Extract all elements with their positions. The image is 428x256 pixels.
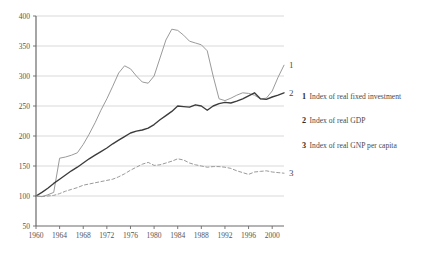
series-line-3 [36, 159, 284, 197]
legend-key: 3 [302, 141, 306, 150]
legend-label: Index of real fixed investment [310, 93, 402, 101]
x-axis-tick-label: 1988 [194, 231, 209, 240]
y-axis-tick-label: 300 [19, 72, 31, 81]
y-axis-tick-label: 200 [19, 132, 31, 141]
legend: 1 Index of real fixed investment 2 Index… [302, 92, 428, 165]
series-lines [36, 29, 284, 196]
y-axis-tick-label: 400 [19, 12, 31, 21]
legend-item: 1 Index of real fixed investment [302, 92, 428, 101]
x-axis-tick-label: 1992 [217, 231, 232, 240]
y-axis-tick-label: 50 [23, 222, 31, 231]
y-axis-tick-label: 100 [19, 192, 31, 201]
y-axis-tick-labels: 50100150200250300350400 [19, 12, 31, 231]
series-line-1 [36, 29, 284, 196]
x-axis-tick-label: 1968 [76, 231, 91, 240]
y-axis-tick-label: 350 [19, 42, 31, 51]
plot-area: 50100150200250300350400 1960196419681972… [0, 0, 300, 256]
legend-item: 3 Index of real GNP per capita [302, 141, 428, 150]
x-axis-tick-label: 1996 [241, 231, 256, 240]
legend-item: 2 Index of real GDP [302, 116, 428, 125]
x-axis-tick-label: 1984 [170, 231, 185, 240]
series-line-2 [36, 93, 284, 196]
series-end-label-1: 1 [289, 60, 294, 70]
y-axis-tick-label: 150 [19, 162, 31, 171]
chart-figure: 50100150200250300350400 1960196419681972… [0, 0, 428, 256]
line-chart-svg: 50100150200250300350400 1960196419681972… [0, 0, 300, 256]
x-axis-tick-label: 2000 [265, 231, 280, 240]
series-end-label-2: 2 [289, 88, 294, 98]
series-end-label-3: 3 [289, 168, 294, 178]
x-axis-tick-label: 1980 [147, 231, 162, 240]
x-axis-tick-label: 1976 [123, 231, 138, 240]
x-axis-tick-labels: 1960196419681972197619801984198819921996… [29, 226, 280, 240]
series-end-labels: 123 [289, 60, 294, 178]
x-axis-tick-label: 1972 [99, 231, 114, 240]
legend-key: 2 [302, 116, 306, 125]
legend-key: 1 [302, 92, 306, 101]
y-axis-tick-label: 250 [19, 102, 31, 111]
legend-label: Index of real GDP [310, 117, 366, 125]
x-axis-tick-label: 1964 [52, 231, 67, 240]
x-axis-tick-label: 1960 [29, 231, 44, 240]
legend-label: Index of real GNP per capita [310, 142, 397, 150]
